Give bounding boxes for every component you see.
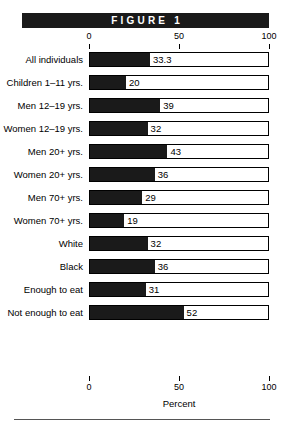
bar-fill [90,191,142,204]
bar-fill [90,283,146,296]
axis-tick-label: 100 [261,32,276,41]
bar-value-label: 36 [155,260,169,273]
bar-fill [90,122,148,135]
bar-value-label: 36 [155,168,169,181]
x-axis-label: Percent [89,398,269,409]
bar-fill [90,53,150,66]
bar-track: 43 [89,144,269,159]
bar-track: 32 [89,236,269,251]
bar-value-label: 52 [184,306,198,319]
bar-fill [90,214,124,227]
bar-category-label: Women 12–19 yrs. [0,121,83,136]
chart-row: Men 12–19 yrs.39 [0,98,284,121]
bar-category-label: Not enough to eat [0,305,83,320]
axis-top: 050100 [89,31,269,49]
chart-row: Children 1–11 yrs.20 [0,75,284,98]
bar-value-label: 33.3 [150,53,172,66]
bar-value-label: 29 [142,191,156,204]
bar-value-label: 20 [126,76,140,89]
bar-rows: All individuals33.3Children 1–11 yrs.20M… [0,52,284,328]
axis-tick-label: 0 [86,383,91,392]
bar-category-label: Children 1–11 yrs. [0,75,83,90]
bar-fill [90,306,184,319]
figure-title-label: FIGURE 1 [108,16,183,26]
bar-track: 29 [89,190,269,205]
bar-fill [90,260,155,273]
bar-category-label: Enough to eat [0,282,83,297]
bar-fill [90,99,160,112]
bar-track: 19 [89,213,269,228]
bar-fill [90,237,148,250]
bar-value-label: 32 [148,237,162,250]
chart-row: Men 70+ yrs.29 [0,190,284,213]
figure-title-banner: FIGURE 1 [22,13,269,28]
axis-bottom: 050100 [89,376,269,394]
bar-track: 36 [89,167,269,182]
chart-row: Men 20+ yrs.43 [0,144,284,167]
bar-value-label: 39 [160,99,174,112]
axis-tick-label: 100 [261,383,276,392]
bar-value-label: 32 [148,122,162,135]
bar-track: 20 [89,75,269,90]
bar-category-label: Black [0,259,83,274]
bar-category-label: Men 20+ yrs. [0,144,83,159]
bar-fill [90,76,126,89]
axis-tick [89,376,90,381]
bar-track: 32 [89,121,269,136]
chart-row: White32 [0,236,284,259]
axis-tick [179,376,180,381]
axis-tick-label: 50 [174,383,184,392]
bar-track: 36 [89,259,269,274]
figure-container: FIGURE 1 050100 All individuals33.3Child… [0,0,284,431]
bar-category-label: Women 20+ yrs. [0,167,83,182]
chart-row: Black36 [0,259,284,282]
bar-category-label: White [0,236,83,251]
bar-track: 39 [89,98,269,113]
chart-row: All individuals33.3 [0,52,284,75]
chart-row: Women 70+ yrs.19 [0,213,284,236]
bar-track: 33.3 [89,52,269,67]
bar-category-label: Men 12–19 yrs. [0,98,83,113]
bar-value-label: 31 [146,283,160,296]
axis-tick-label: 0 [86,32,91,41]
axis-tick [89,44,90,49]
bar-value-label: 19 [124,214,138,227]
axis-tick [179,44,180,49]
bar-track: 31 [89,282,269,297]
bar-fill [90,145,167,158]
axis-tick [269,44,270,49]
chart-row: Women 12–19 yrs.32 [0,121,284,144]
bar-category-label: Women 70+ yrs. [0,213,83,228]
bottom-divider [14,419,270,420]
bar-category-label: All individuals [0,52,83,67]
bar-category-label: Men 70+ yrs. [0,190,83,205]
bar-fill [90,168,155,181]
chart-row: Women 20+ yrs.36 [0,167,284,190]
axis-tick-label: 50 [174,32,184,41]
chart-row: Enough to eat31 [0,282,284,305]
chart-row: Not enough to eat52 [0,305,284,328]
bar-track: 52 [89,305,269,320]
bar-value-label: 43 [167,145,181,158]
axis-tick [269,376,270,381]
